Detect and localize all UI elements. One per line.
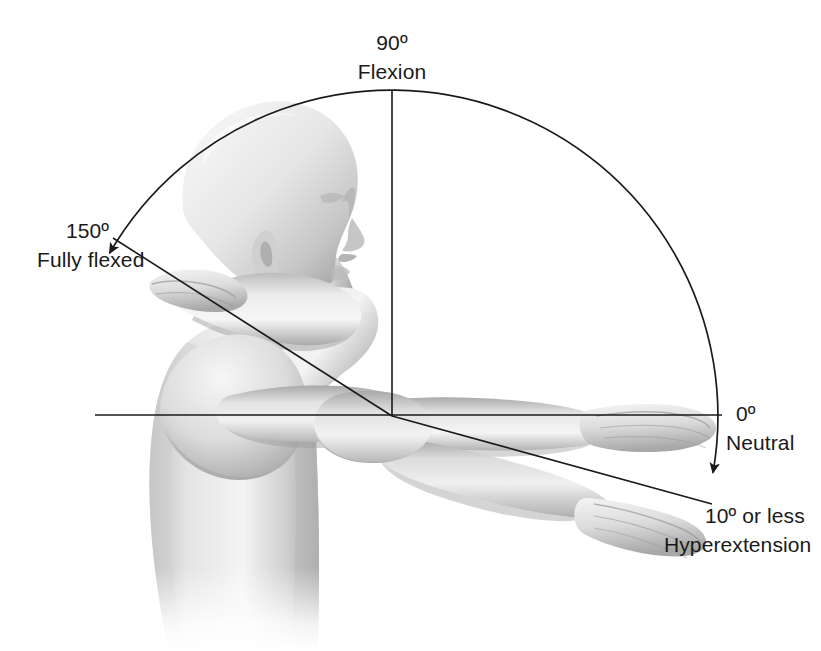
- fully-flexed-angle-label: 150º: [66, 220, 109, 242]
- fully-flexed-name-label: Fully flexed: [37, 249, 144, 271]
- hyperextension-name-label: Hyperextension: [664, 534, 811, 556]
- hyperextension-angle-label: 10º or less: [705, 505, 805, 527]
- neutral-name-label: Neutral: [726, 432, 794, 454]
- human-figure-illustration: [120, 101, 716, 651]
- elbow-range-of-motion-figure: 90º Flexion 150º Fully flexed 0º Neutral…: [0, 0, 821, 651]
- head: [182, 101, 364, 298]
- flexion-angle-label: 90º: [376, 32, 407, 54]
- flexed-hand: [149, 270, 247, 313]
- flexion-name-label: Flexion: [358, 61, 426, 83]
- neutral-hand: [579, 404, 716, 452]
- neutral-angle-label: 0º: [736, 403, 756, 425]
